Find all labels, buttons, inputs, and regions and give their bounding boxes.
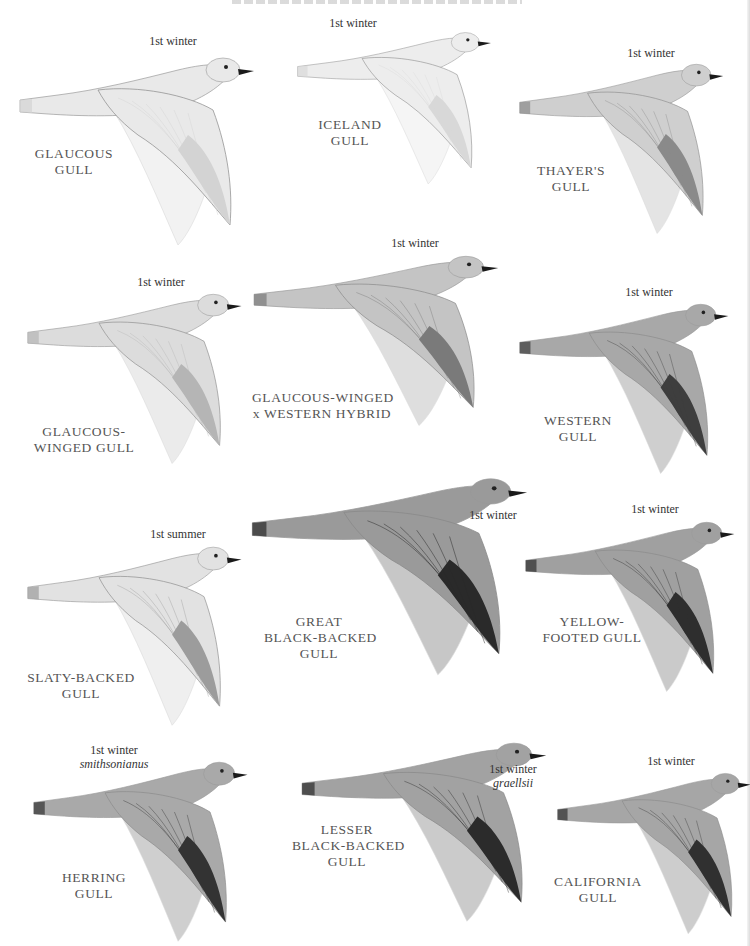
species-name: GLAUCOUS-WINGED x WESTERN HYBRID — [252, 390, 392, 422]
bill — [720, 532, 734, 537]
field-guide-plate-page: 1st winter GLAUCOUS GULL 1st winter ICEL… — [0, 0, 750, 946]
gull-illustration — [524, 506, 729, 696]
tail-band — [558, 809, 568, 821]
gull-illustration — [518, 288, 723, 478]
plate-slaty-backed-gull: 1st summer SLATY-BACKED GULL — [26, 530, 236, 730]
head — [681, 64, 711, 86]
species-name: YELLOW- FOOTED GULL — [542, 614, 642, 646]
age-label: 1st winter — [380, 236, 450, 250]
gull-figure — [298, 33, 491, 184]
eye — [515, 750, 519, 754]
age-text: 1st summer — [150, 527, 206, 541]
species-name-line: CALIFORNIA — [552, 874, 644, 890]
bill — [478, 41, 491, 46]
age-label: 1st summer — [138, 527, 218, 541]
age-text: 1st winter — [90, 743, 138, 757]
eye — [214, 301, 218, 305]
bill — [227, 558, 242, 564]
tail-band — [20, 99, 32, 113]
bill — [709, 74, 723, 79]
gull-illustration — [18, 40, 248, 250]
species-name-line: GULL — [552, 890, 644, 906]
head — [198, 294, 229, 316]
eye — [726, 779, 729, 782]
plate-california-gull: 1st winter CALIFORNIA GULL — [556, 758, 746, 938]
gull-illustration — [32, 745, 242, 946]
species-name-line: BLACK-BACKED — [264, 630, 374, 646]
species-name-line: WESTERN — [538, 413, 618, 429]
plate-great-black-backed-gull: 1st winter GREAT BLACK-BACKED GULL — [250, 460, 520, 680]
tail-band — [34, 801, 45, 814]
species-name: GLAUCOUS- WINGED GULL — [28, 424, 140, 456]
head — [204, 762, 235, 785]
subspecies-text: smithsonianus — [74, 757, 154, 771]
tail-band — [252, 522, 266, 537]
plate-western-gull: 1st winter WESTERN GULL — [518, 288, 723, 478]
species-name-line: GULL — [526, 179, 616, 195]
age-label: 1st winter — [126, 275, 196, 289]
tail-band — [302, 782, 315, 795]
species-name: WESTERN GULL — [538, 413, 618, 445]
eye — [467, 263, 471, 267]
head — [448, 256, 483, 278]
tail-band — [526, 559, 537, 572]
species-name-line: GULL — [54, 886, 134, 902]
age-text: 1st winter — [647, 754, 695, 768]
bill — [227, 304, 242, 309]
head — [686, 304, 716, 326]
species-name: HERRING GULL — [54, 870, 134, 902]
species-name-line: THAYER'S — [526, 163, 616, 179]
species-name-line: SLATY-BACKED — [26, 670, 136, 686]
plate-lesser-black-backed-gull: 1st winter graellsii LESSER BLACK-BACKED… — [300, 726, 540, 926]
age-text: 1st winter — [391, 236, 439, 250]
bill — [530, 754, 547, 760]
gull-figure — [558, 773, 750, 933]
species-name: GREAT BLACK-BACKED GULL — [264, 614, 374, 662]
species-name: LESSER BLACK-BACKED GULL — [292, 822, 402, 870]
eye — [224, 65, 228, 69]
species-name-line: GULL — [24, 162, 124, 178]
bill — [508, 490, 527, 496]
bill — [238, 69, 254, 75]
clipped-page-header — [232, 0, 522, 4]
head — [451, 33, 479, 52]
gull-illustration — [518, 48, 718, 238]
species-name-line: x WESTERN HYBRID — [252, 406, 392, 422]
eye — [220, 769, 224, 773]
species-name-line: GULL — [264, 646, 374, 662]
age-text: 1st winter — [469, 508, 517, 522]
species-name-line: FOOTED GULL — [542, 630, 642, 646]
gull-figure — [526, 522, 735, 691]
age-text: 1st winter — [329, 16, 377, 30]
gull-figure — [520, 304, 729, 473]
subspecies-text: graellsii — [478, 776, 548, 790]
species-name-line: GULL — [26, 686, 136, 702]
plate-thayers-gull: 1st winter THAYER'S GULL — [518, 48, 718, 238]
age-text: 1st winter — [631, 502, 679, 516]
species-name-line: GREAT — [264, 614, 374, 630]
bill — [482, 266, 499, 271]
head — [711, 773, 739, 794]
species-name-line: GULL — [538, 429, 618, 445]
tail-band — [520, 341, 531, 354]
species-name: SLATY-BACKED GULL — [26, 670, 136, 702]
tail-band — [520, 101, 530, 114]
gull-figure — [520, 64, 723, 233]
plate-glaucous-winged-x-western-hybrid: 1st winter GLAUCOUS-WINGED x WESTERN HYB… — [252, 240, 492, 430]
bill — [233, 773, 248, 779]
species-name-line: GULL — [292, 854, 402, 870]
species-name-line: GLAUCOUS- — [28, 424, 140, 440]
eye — [466, 38, 469, 41]
age-label: 1st winter — [616, 46, 686, 60]
age-label: 1st winter — [636, 754, 706, 768]
eye — [697, 71, 700, 75]
plate-iceland-gull: 1st winter ICELAND GULL — [296, 18, 486, 188]
eye — [492, 486, 497, 490]
head — [206, 58, 240, 82]
eye — [708, 529, 712, 533]
species-name-line: HERRING — [54, 870, 134, 886]
age-label: 1st winter — [318, 16, 388, 30]
species-name-line: GLAUCOUS — [24, 146, 124, 162]
tail-band — [298, 66, 308, 77]
tail-band — [28, 586, 39, 599]
